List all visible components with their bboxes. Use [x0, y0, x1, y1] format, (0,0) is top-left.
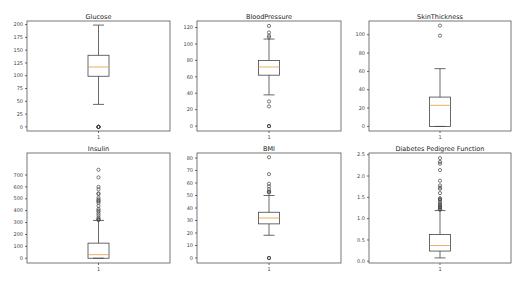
- y-tick-label: 0.5: [357, 237, 365, 243]
- x-tick-label: 1: [97, 266, 100, 272]
- y-tick-label: 100: [13, 243, 23, 249]
- y-tick-label: 25: [17, 111, 23, 117]
- y-tick-label: 150: [13, 47, 23, 53]
- y-tick-label: 600: [13, 184, 23, 190]
- chart-title: BMI: [263, 145, 275, 153]
- y-tick-label: 0.0: [357, 258, 365, 264]
- chart-title: BloodPressure: [246, 13, 292, 21]
- y-tick-label: 0: [362, 123, 365, 129]
- x-tick-label: 1: [438, 134, 441, 140]
- y-tick-label: 70: [187, 167, 193, 173]
- y-tick-label: 20: [359, 105, 365, 111]
- boxplot-panel-bloodpressure: BloodPressure0204060801001201: [183, 13, 341, 140]
- y-tick-label: 100: [355, 31, 365, 37]
- boxplot-panel-glucose: Glucose02550751001251501752001: [13, 13, 170, 140]
- y-tick-label: 175: [13, 34, 23, 40]
- y-tick-label: 125: [13, 60, 23, 66]
- y-tick-label: 120: [183, 24, 193, 30]
- y-tick-label: 100: [183, 41, 193, 47]
- x-tick-label: 1: [438, 266, 441, 272]
- y-tick-label: 1.5: [357, 194, 365, 200]
- boxplot-panel-skinthickness: SkinThickness0204060801001: [355, 13, 511, 140]
- y-tick-label: 700: [13, 172, 23, 178]
- boxplot-panel-bmi: BMI010203040506070801: [187, 145, 341, 272]
- chart-title: Diabetes Pedigree Function: [396, 145, 485, 153]
- y-tick-label: 75: [17, 85, 23, 91]
- y-tick-label: 0: [190, 255, 193, 261]
- y-tick-label: 10: [187, 242, 193, 248]
- y-tick-label: 80: [187, 155, 193, 161]
- y-tick-label: 500: [13, 195, 23, 201]
- chart-title: Insulin: [88, 145, 109, 153]
- y-tick-label: 2.0: [357, 173, 365, 179]
- y-tick-label: 30: [187, 217, 193, 223]
- y-tick-label: 80: [187, 57, 193, 63]
- chart-title: SkinThickness: [417, 13, 464, 21]
- y-tick-label: 60: [187, 180, 193, 186]
- y-tick-label: 400: [13, 207, 23, 213]
- boxplot-panel-diabetes-pedigree-function: Diabetes Pedigree Function0.00.51.01.52.…: [357, 145, 511, 272]
- y-tick-label: 0: [20, 255, 23, 261]
- x-tick-label: 1: [97, 134, 100, 140]
- y-tick-label: 0: [190, 123, 193, 129]
- boxplot-panel-insulin: Insulin01002003004005006007001: [13, 145, 170, 272]
- y-tick-label: 20: [187, 230, 193, 236]
- x-tick-label: 1: [267, 134, 270, 140]
- y-tick-label: 60: [187, 74, 193, 80]
- y-tick-label: 0: [20, 124, 23, 130]
- y-tick-label: 20: [187, 106, 193, 112]
- y-tick-label: 50: [187, 192, 193, 198]
- y-tick-label: 40: [187, 205, 193, 211]
- y-tick-label: 100: [13, 72, 23, 78]
- y-tick-label: 200: [13, 231, 23, 237]
- y-tick-label: 200: [13, 21, 23, 27]
- y-tick-label: 40: [359, 86, 365, 92]
- boxplot-grid: Glucose02550751001251501752001BloodPress…: [0, 0, 524, 283]
- y-tick-label: 40: [187, 90, 193, 96]
- y-tick-label: 300: [13, 219, 23, 225]
- y-tick-label: 50: [17, 98, 23, 104]
- y-tick-label: 1.0: [357, 215, 365, 221]
- y-tick-label: 2.5: [357, 151, 365, 157]
- y-tick-label: 60: [359, 68, 365, 74]
- x-tick-label: 1: [267, 266, 270, 272]
- axes-frame: [27, 153, 170, 263]
- y-tick-label: 80: [359, 50, 365, 56]
- chart-title: Glucose: [86, 13, 112, 21]
